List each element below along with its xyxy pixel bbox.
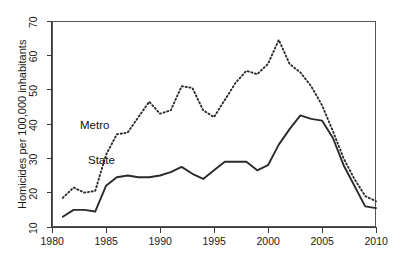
x-tick-label-1980: 1980 <box>41 236 64 247</box>
x-tick-2010 <box>376 228 377 233</box>
y-tick-40 <box>47 124 52 125</box>
y-tick-label-60: 60 <box>28 51 39 63</box>
x-tick-label-2005: 2005 <box>311 236 334 247</box>
series-annotation-state: State <box>88 154 115 166</box>
x-tick-label-1990: 1990 <box>149 236 172 247</box>
y-tick-50 <box>47 89 52 90</box>
y-tick-label-20: 20 <box>28 188 39 200</box>
x-tick-label-1985: 1985 <box>95 236 118 247</box>
y-tick-label-70: 70 <box>28 16 39 28</box>
y-tick-label-40: 40 <box>28 119 39 131</box>
x-tick-1980 <box>52 228 53 233</box>
y-tick-label-30: 30 <box>28 154 39 166</box>
x-tick-2005 <box>322 228 323 233</box>
y-tick-label-10: 10 <box>28 222 39 234</box>
y-tick-20 <box>47 192 52 193</box>
x-tick-2000 <box>268 228 269 233</box>
homicides-line-chart: Homicides per 100,000 inhabitants 102030… <box>0 0 400 269</box>
y-tick-label-50: 50 <box>28 85 39 97</box>
x-tick-label-2010: 2010 <box>365 236 388 247</box>
x-tick-1985 <box>106 228 107 233</box>
x-tick-1990 <box>160 228 161 233</box>
y-tick-70 <box>47 21 52 22</box>
series-annotation-metro: Metro <box>80 119 109 131</box>
x-tick-1995 <box>214 228 215 233</box>
x-tick-label-1995: 1995 <box>203 236 226 247</box>
y-tick-60 <box>47 55 52 56</box>
y-tick-30 <box>47 158 52 159</box>
x-tick-label-2000: 2000 <box>257 236 280 247</box>
